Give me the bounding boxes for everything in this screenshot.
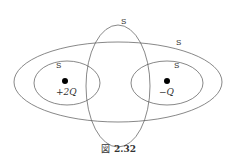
charge-label-right: −Q — [159, 87, 175, 97]
charge-dot-left — [62, 78, 68, 84]
label-surface-left: S — [56, 61, 61, 70]
charge-label-left: +2Q — [56, 87, 77, 97]
label-surface-large: S — [176, 38, 181, 47]
charge-dot-right — [164, 78, 170, 84]
label-surface-vertical: S — [121, 17, 126, 26]
surface-vertical — [86, 25, 150, 147]
gauss-surfaces-diagram: S S S S +2Q −Q 図2.32 — [0, 0, 239, 165]
surface-large — [14, 42, 222, 122]
label-surface-right: S — [174, 61, 179, 70]
figure-caption: 図2.32 — [101, 144, 136, 154]
